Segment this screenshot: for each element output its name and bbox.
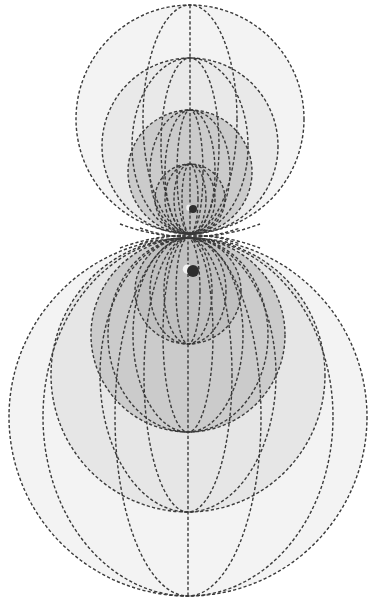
lower-circle-family (9, 236, 367, 596)
field-diagram (0, 0, 384, 603)
upper-particle (189, 205, 197, 213)
upper-circle-family (76, 5, 304, 234)
lower-particle (187, 265, 199, 277)
